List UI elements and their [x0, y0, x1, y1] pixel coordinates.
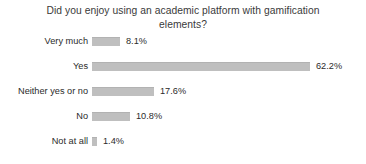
bar-row: Very much 8.1% — [0, 36, 366, 61]
category-label-not-at-all: Not at all — [0, 136, 88, 147]
bar-value-very-much: 8.1% — [126, 36, 147, 47]
category-label-no: No — [0, 111, 88, 122]
category-label-neither-yes-or-no: Neither yes or no — [0, 86, 88, 97]
bar-value-no: 10.8% — [136, 111, 162, 122]
bar-very-much — [92, 37, 120, 46]
category-label-very-much: Very much — [0, 36, 88, 47]
bar-no — [92, 112, 130, 121]
bar-row: Yes 62.2% — [0, 61, 366, 86]
bar-chart: Did you enjoy using an academic platform… — [0, 0, 366, 164]
plot-area: Very much 8.1% Yes 62.2% Neither yes or … — [0, 36, 366, 164]
bar-row: Not at all 1.4% — [0, 136, 366, 161]
bar-row: Neither yes or no 17.6% — [0, 86, 366, 111]
bar-value-yes: 62.2% — [316, 61, 342, 72]
bar-neither-yes-or-no — [92, 87, 154, 96]
bar-row: No 10.8% — [0, 111, 366, 136]
bar-value-not-at-all: 1.4% — [103, 136, 124, 147]
chart-title: Did you enjoy using an academic platform… — [8, 4, 358, 32]
category-label-yes: Yes — [0, 61, 88, 72]
bar-not-at-all — [92, 137, 97, 146]
bar-value-neither-yes-or-no: 17.6% — [160, 86, 186, 97]
bar-yes — [92, 62, 310, 71]
